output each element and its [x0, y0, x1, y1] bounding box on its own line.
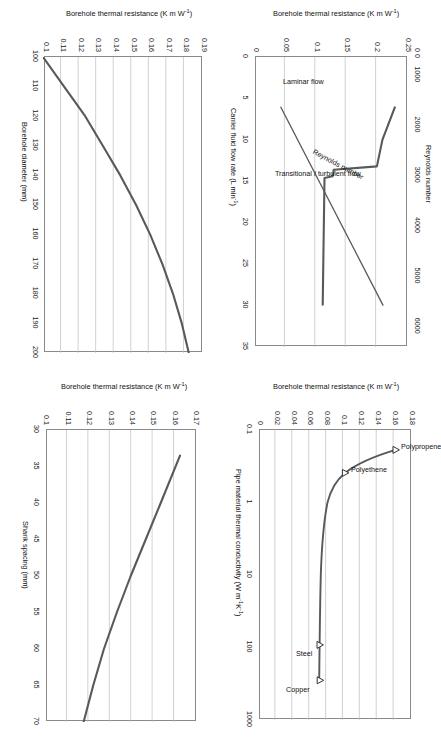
yaxis-label-text-pc: Borehole thermal resistance (K m W [273, 382, 392, 391]
xtick-flow-rate-5: 25 [242, 251, 249, 275]
plot-area-flow-rate [255, 56, 407, 346]
xtick-borehole-diameter-6: 160 [32, 222, 39, 246]
plot-canvas-flow-rate [256, 57, 406, 345]
xtick-shank-6: 60 [33, 636, 40, 660]
xtick-pipe-2: 10 [246, 562, 253, 586]
steel-label: Steel [296, 650, 312, 657]
ytick-flow-rate-0: 0 [253, 20, 260, 52]
xtick-shank-3: 45 [33, 527, 40, 551]
xaxis-label-flow-rate: Carrier fluid flow rate (L min-1) [230, 108, 237, 206]
xtick-borehole-diameter-5: 150 [32, 192, 39, 216]
xtick-borehole-diameter-2: 120 [32, 103, 39, 127]
plot-area-borehole-diameter [44, 56, 202, 352]
polypropene-marker [393, 446, 399, 453]
ytick-shank-0: 0.1 [43, 393, 50, 425]
series-pipe-conductivity [319, 450, 395, 680]
xtick-shank-1: 35 [33, 454, 40, 478]
xtick-flow-rate-0: 0 [242, 44, 249, 68]
ytick-flow-rate-1: 0.05 [283, 20, 290, 52]
ytick-pipe-4: 0.08 [324, 393, 331, 425]
panel-flow-rate: 0 0.05 0.1 0.15 0.2 0.25 0 5 10 15 20 25… [217, 0, 433, 373]
y2tick-r5: 5000 [414, 261, 421, 289]
yaxis-label-tail-pc: ) [397, 382, 399, 391]
ytick-shank-6: 0.16 [172, 393, 179, 425]
y2tick-r1: 1000 [414, 60, 421, 88]
yaxis-label-flow-rate: Borehole thermal resistance (K m W-1) [273, 10, 399, 17]
laminar-flow-label: Laminar flow [283, 78, 324, 85]
ytick-borehole-diameter-4: 0.14 [113, 20, 120, 52]
ytick-borehole-diameter-2: 0.12 [78, 20, 85, 52]
xaxis-label-tail-pc: ) [234, 614, 243, 616]
xtick-flow-rate-3: 15 [242, 168, 249, 192]
xtick-borehole-diameter-3: 130 [32, 133, 39, 157]
ytick-pipe-8: 0.16 [392, 393, 399, 425]
ytick-pipe-3: 0.06 [307, 393, 314, 425]
xtick-borehole-diameter-4: 140 [32, 162, 39, 186]
xtick-borehole-diameter-10: 200 [32, 340, 39, 364]
xtick-flow-rate-6: 30 [242, 293, 249, 317]
ytick-pipe-6: 0.12 [358, 393, 365, 425]
ytick-borehole-diameter-7: 0.17 [166, 20, 173, 52]
copper-marker [317, 677, 323, 684]
ytick-borehole-diameter-1: 0.11 [60, 20, 67, 52]
y2tick-r4: 4000 [414, 211, 421, 239]
xaxis-label-tail-fr: ) [229, 203, 238, 205]
xaxis-label-borehole-diameter: Borehole diameter (mm) [21, 122, 28, 202]
plot-area-pipe-conductivity [259, 429, 411, 719]
ytick-shank-7: 0.17 [193, 393, 200, 425]
xtick-flow-rate-1: 5 [242, 85, 249, 109]
y2tick-r2: 2000 [414, 111, 421, 139]
xtick-shank-0: 30 [33, 417, 40, 441]
plot-canvas-borehole-diameter [45, 57, 201, 351]
ytick-borehole-diameter-8: 0.18 [183, 20, 190, 52]
ytick-borehole-diameter-6: 0.16 [148, 20, 155, 52]
xtick-flow-rate-7: 35 [242, 334, 249, 358]
xtick-pipe-3: 100 [246, 635, 253, 659]
panel-shank-spacing: 0.1 0.11 0.12 0.13 0.14 0.15 0.16 0.17 3… [0, 373, 216, 746]
ytick-pipe-0: 0 [257, 393, 264, 425]
ytick-pipe-1: 0.02 [274, 393, 281, 425]
ytick-shank-2: 0.12 [86, 393, 93, 425]
yaxis-label-text-fr: Borehole thermal resistance (K m W [273, 9, 392, 18]
series-reynolds-number [281, 107, 384, 306]
xaxis-label-pipe-conductivity: Pipe material thermal conductivity (W m-… [235, 469, 242, 617]
gridlines-borehole-diameter [61, 57, 184, 353]
xtick-pipe-1: 1 [246, 490, 253, 514]
ytick-flow-rate-2: 0.1 [313, 20, 320, 52]
yaxis-label-text-ss: Borehole thermal resistance (K m W [61, 382, 180, 391]
ytick-flow-rate-5: 0.25 [405, 20, 412, 52]
y2axis-label-reynolds-number: Reynolds number [425, 145, 432, 203]
plot-canvas-shank-spacing [47, 430, 195, 720]
xtick-shank-5: 55 [33, 600, 40, 624]
xtick-shank-4: 50 [33, 563, 40, 587]
y2tick-r3: 3000 [414, 161, 421, 189]
copper-label: Copper [286, 686, 310, 693]
xaxis-label-shank-spacing: Shank spacing (mm) [22, 521, 29, 589]
xtick-borehole-diameter-1: 110 [32, 74, 39, 98]
xtick-pipe-0: 0.1 [246, 417, 253, 441]
ytick-pipe-9: 0.18 [409, 393, 416, 425]
xtick-borehole-diameter-0: 100 [32, 44, 39, 68]
yaxis-label-tail-fr: ) [397, 9, 399, 18]
series-borehole-diameter [43, 57, 189, 353]
gridlines-shank-spacing [66, 430, 173, 722]
panel-borehole-diameter: 0.1 0.11 0.12 0.13 0.14 0.15 0.16 0.17 0… [0, 0, 216, 373]
markers-pipe-conductivity [317, 446, 399, 683]
xtick-flow-rate-4: 20 [242, 210, 249, 234]
xtick-shank-7: 65 [33, 673, 40, 697]
yaxis-label-tail-bd: ) [190, 9, 192, 18]
ytick-borehole-diameter-3: 0.13 [95, 20, 102, 52]
xtick-shank-2: 40 [33, 490, 40, 514]
series-borehole-resistance-flow [323, 107, 395, 306]
ytick-shank-5: 0.15 [150, 393, 157, 425]
ytick-pipe-2: 0.04 [290, 393, 297, 425]
yaxis-label-tail-ss: ) [185, 382, 187, 391]
yaxis-label-borehole-diameter: Borehole thermal resistance (K m W-1) [66, 10, 192, 17]
xtick-shank-8: 70 [33, 709, 40, 733]
ytick-flow-rate-4: 0.2 [374, 20, 381, 52]
plot-area-shank-spacing [46, 429, 196, 721]
ytick-borehole-diameter-5: 0.15 [130, 20, 137, 52]
xtick-borehole-diameter-7: 170 [32, 251, 39, 275]
panel-pipe-conductivity: 0 0.02 0.04 0.06 0.08 0.1 0.12 0.14 0.16… [217, 373, 433, 746]
